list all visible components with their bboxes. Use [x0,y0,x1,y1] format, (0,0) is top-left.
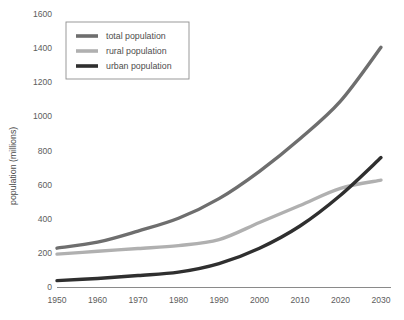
legend: total population rural population urban … [66,22,189,79]
x-tick-label: 1980 [169,295,188,305]
x-tick-label: 2010 [290,295,309,305]
series-line-rural-population [57,180,381,254]
population-line-chart: 1600 1400 1200 1000 800 600 400 200 0 po… [0,0,404,320]
x-tick-label: 2000 [250,295,269,305]
y-tick-label: 200 [38,248,53,258]
y-tick-label: 800 [38,146,53,156]
legend-label-rural-population: rural population [106,46,167,56]
series-group [57,47,381,280]
y-tick-label: 0 [47,282,52,292]
y-tick-label: 1400 [33,43,52,53]
y-tick-label: 400 [38,214,53,224]
y-axis-title: population (millions) [8,127,18,205]
x-tick-label: 2030 [371,295,390,305]
x-tick-label: 1970 [128,295,147,305]
x-tick-label: 1960 [88,295,107,305]
y-tick-label: 600 [38,180,53,190]
x-axis-tick-labels: 1950 1960 1970 1980 1990 2000 2010 2020 … [47,295,390,305]
legend-label-total-population: total population [106,31,166,41]
series-line-urban-population [57,158,381,281]
y-tick-label: 1000 [33,111,52,121]
x-tick-label: 2020 [331,295,350,305]
x-tick-label: 1990 [209,295,228,305]
chart-canvas: 1600 1400 1200 1000 800 600 400 200 0 po… [0,0,404,320]
y-tick-label: 1600 [33,9,52,19]
y-tick-label: 1200 [33,77,52,87]
y-axis-tick-labels: 1600 1400 1200 1000 800 600 400 200 0 [33,9,52,292]
x-tick-label: 1950 [47,295,66,305]
legend-label-urban-population: urban population [106,61,172,71]
